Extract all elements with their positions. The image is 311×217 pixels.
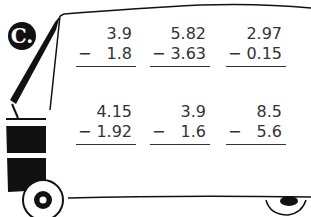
answer-line [226,144,286,145]
subtrahend: 5.6 [257,122,282,141]
answer-line [76,144,136,145]
minuend: 5.82 [150,24,210,44]
minus-sign: − [78,44,91,64]
minus-sign: − [228,122,241,142]
problem-5: 3.9 −1.6 [150,102,210,145]
problem-2: 5.82 −3.63 [150,24,210,67]
subtrahend: 1.6 [181,122,206,141]
answer-line [76,66,136,67]
minuend: 4.15 [76,102,136,122]
section-label-badge: C. [8,22,36,50]
problem-1: 3.9 −1.8 [76,24,136,67]
minus-sign: − [152,44,165,64]
answer-line [226,66,286,67]
subtrahend: 0.15 [246,44,282,63]
problem-6: 8.5 −5.6 [226,102,286,145]
answer-line [150,66,210,67]
minus-sign: − [228,44,241,64]
minuend: 3.9 [150,102,210,122]
minus-sign: − [152,122,165,142]
minuend: 3.9 [76,24,136,44]
subtrahend: 3.63 [170,44,206,63]
minuend: 8.5 [226,102,286,122]
answer-line [150,144,210,145]
problem-3: 2.97 −0.15 [226,24,286,67]
minus-sign: − [78,122,91,142]
subtrahend: 1.92 [96,122,132,141]
problem-4: 4.15 −1.92 [76,102,136,145]
subtrahend: 1.8 [107,44,132,63]
minuend: 2.97 [226,24,286,44]
